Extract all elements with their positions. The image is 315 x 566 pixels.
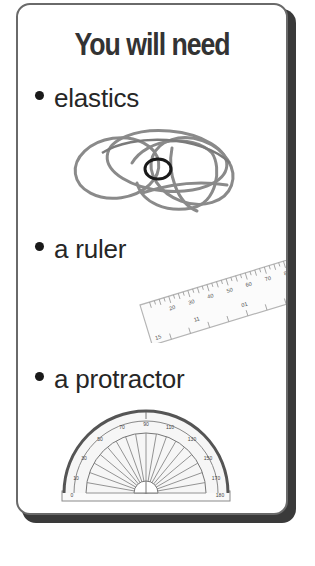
elastic-bands-icon bbox=[72, 123, 242, 218]
svg-text:110: 110 bbox=[166, 424, 174, 430]
svg-text:80: 80 bbox=[283, 269, 288, 277]
svg-text:90: 90 bbox=[143, 421, 149, 427]
supplies-card: You will need elastics a ruler bbox=[16, 3, 288, 515]
svg-text:170: 170 bbox=[212, 475, 221, 481]
svg-text:0: 0 bbox=[71, 492, 74, 498]
card-title: You will need bbox=[37, 27, 267, 63]
list-item-ruler: a ruler bbox=[18, 234, 126, 264]
item-label: a ruler bbox=[54, 234, 126, 264]
list-item-elastics: elastics bbox=[18, 83, 139, 113]
ruler-icon: 20 30 40 50 60 70 80 90 15 11 01 6 bbox=[136, 233, 288, 343]
svg-text:150: 150 bbox=[204, 455, 213, 461]
item-label: a protractor bbox=[54, 364, 185, 394]
list-item-protractor: a protractor bbox=[18, 364, 185, 394]
svg-text:30: 30 bbox=[81, 455, 87, 461]
bullet-icon bbox=[35, 372, 44, 381]
svg-text:180: 180 bbox=[216, 492, 225, 498]
svg-text:10: 10 bbox=[73, 475, 79, 481]
protractor-icon: 90 70 110 50 130 30 150 10 170 0 180 bbox=[60, 405, 232, 503]
bullet-icon bbox=[35, 242, 44, 251]
bullet-icon bbox=[35, 91, 44, 100]
svg-text:50: 50 bbox=[97, 436, 103, 442]
item-label: elastics bbox=[54, 83, 139, 113]
svg-text:70: 70 bbox=[119, 424, 125, 430]
svg-text:130: 130 bbox=[188, 436, 197, 442]
